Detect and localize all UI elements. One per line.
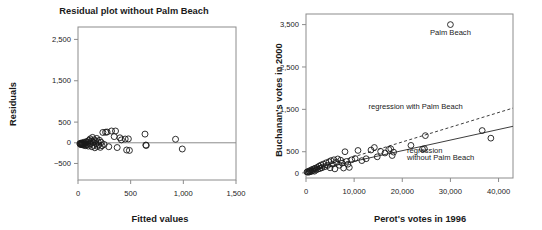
buchanan-perot-svg: 05001,5002,5003,500010,00020,00030,00040… — [268, 0, 542, 230]
x-tick-label: 40,000 — [487, 187, 510, 196]
residual-plot-panel: Residual plot without Palm Beach −500050… — [0, 0, 268, 230]
buchanan-perot-annotations: Palm Beachregression with Palm Beachregr… — [369, 28, 475, 162]
data-point — [111, 134, 117, 140]
annotation-palm-beach-label: Palm Beach — [430, 28, 471, 37]
buchanan-perot-xlabel: Perot's votes in 1996 — [374, 214, 466, 224]
data-point — [355, 148, 361, 154]
data-point — [173, 136, 179, 142]
residual-plot-xlabel: Fitted values — [132, 214, 189, 224]
x-tick-label: 1,500 — [226, 189, 245, 198]
buchanan-perot-regression-lines — [306, 108, 513, 172]
x-tick-label: 1,000 — [174, 189, 193, 198]
y-tick-label: −500 — [54, 159, 71, 168]
figure-container: Residual plot without Palm Beach −500050… — [0, 0, 542, 230]
data-point — [113, 128, 119, 134]
data-point — [342, 149, 348, 155]
y-tick-label: 0 — [295, 169, 299, 178]
buchanan-perot-ylabel: Buchanan's votes in 2000 — [274, 43, 284, 156]
x-tick-label: 0 — [76, 189, 80, 198]
data-point — [142, 131, 148, 137]
x-tick-label: 500 — [124, 189, 137, 198]
residual-plot-svg: Residual plot without Palm Beach −500050… — [0, 0, 268, 230]
annotation-regression-without-label-2: without Palm Beach — [406, 153, 474, 162]
x-tick-label: 10,000 — [343, 187, 366, 196]
annotation-regression-with-label: regression with Palm Beach — [369, 102, 463, 111]
data-point — [114, 145, 120, 151]
plot-frame — [78, 27, 236, 180]
data-point — [488, 135, 494, 141]
buchanan-perot-points — [304, 22, 494, 175]
y-tick-label: 3,500 — [280, 20, 299, 29]
x-tick-label: 20,000 — [391, 187, 414, 196]
y-tick-label: 500 — [58, 118, 71, 127]
residual-plot-points — [77, 128, 185, 153]
y-tick-label: 500 — [286, 147, 299, 156]
data-point — [422, 133, 428, 139]
x-tick-label: 0 — [304, 187, 308, 196]
y-tick-label: 1,500 — [52, 76, 71, 85]
y-tick-label: 2,500 — [52, 35, 71, 44]
data-point — [448, 22, 454, 28]
y-tick-label: 0 — [67, 138, 71, 147]
residual-plot-ylabel: Residuals — [8, 82, 18, 126]
data-point — [389, 153, 395, 159]
residual-plot-title: Residual plot without Palm Beach — [59, 6, 209, 16]
data-point — [179, 146, 185, 152]
residual-plot-tick-labels: −50005001,5002,50005001,0001,500 — [52, 35, 246, 198]
residual-plot-axes — [74, 27, 236, 184]
buchanan-perot-panel: 05001,5002,5003,500010,00020,00030,00040… — [268, 0, 542, 230]
x-tick-label: 30,000 — [439, 187, 462, 196]
